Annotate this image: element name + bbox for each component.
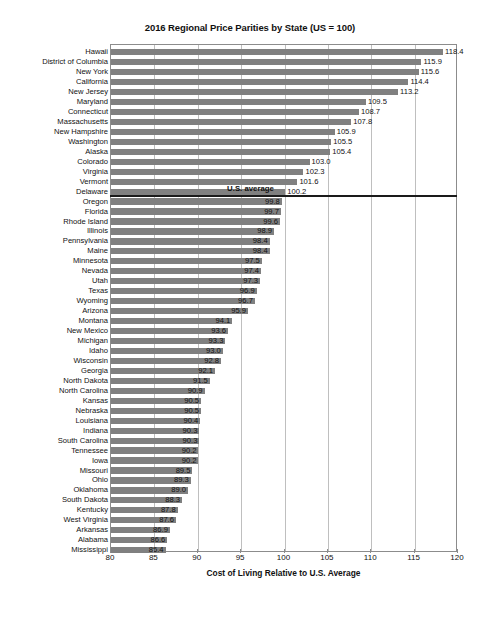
bar-row: Iowa90.2: [0, 456, 500, 466]
bar-row: Washington105.5: [0, 137, 500, 147]
bar: [111, 218, 280, 224]
bar: [111, 288, 257, 294]
bar-value-label: 97.5: [245, 256, 260, 266]
state-label: Illinois: [0, 226, 108, 236]
bar-row: Arizona95.9: [0, 306, 500, 316]
bar-value-label: 93.0: [206, 346, 221, 356]
x-tick-95: 95: [220, 553, 260, 562]
bar: [111, 228, 274, 234]
bar-value-label: 90.5: [184, 406, 199, 416]
bar-row: New York115.6: [0, 67, 500, 77]
bar-row: Idaho93.0: [0, 346, 500, 356]
state-label: Michigan: [0, 336, 108, 346]
bar-row: Florida99.7: [0, 207, 500, 217]
bar-value-label: 107.8: [353, 117, 372, 127]
x-tickmark-115: [414, 549, 415, 553]
state-label: Pennsylvania: [0, 236, 108, 246]
state-label: Nevada: [0, 266, 108, 276]
bar-row: Pennsylvania98.4: [0, 236, 500, 246]
state-label: New Hampshire: [0, 127, 108, 137]
bar-row: Texas96.9: [0, 286, 500, 296]
bar-value-label: 90.3: [183, 426, 198, 436]
bar-value-label: 90.4: [183, 416, 198, 426]
x-tickmark-80: [110, 549, 111, 553]
bar: [111, 169, 303, 175]
bar-row: Michigan93.3: [0, 336, 500, 346]
chart-figure: 2016 Regional Price Parities by State (U…: [0, 0, 500, 622]
state-label: Kentucky: [0, 505, 108, 515]
bar: [111, 248, 270, 254]
x-tick-100: 100: [264, 553, 304, 562]
bar: [111, 268, 261, 274]
bar-row: Minnesota97.5: [0, 256, 500, 266]
bar-row: Georgia92.1: [0, 366, 500, 376]
state-label: Wyoming: [0, 296, 108, 306]
bar-value-label: 87.6: [159, 515, 174, 525]
bar-row: South Dakota88.3: [0, 495, 500, 505]
bar: [111, 109, 359, 115]
bar-row: Rhode Island99.6: [0, 217, 500, 227]
state-label: Indiana: [0, 426, 108, 436]
bar-row: Virginia102.3: [0, 167, 500, 177]
bar-value-label: 115.9: [423, 57, 441, 67]
state-label: Connecticut: [0, 107, 108, 117]
bar: [111, 159, 310, 165]
bar-value-label: 114.4: [410, 77, 428, 87]
state-label: Kansas: [0, 396, 108, 406]
bar-value-label: 95.9: [231, 306, 246, 316]
bar: [111, 119, 351, 125]
bar-value-label: 89.0: [171, 485, 186, 495]
bar-value-label: 98.4: [253, 236, 268, 246]
bar-row: Hawaii118.4: [0, 47, 500, 57]
bar-value-label: 92.1: [198, 366, 213, 376]
bar-row: Connecticut108.7: [0, 107, 500, 117]
bar-value-label: 87.8: [161, 505, 176, 515]
bar: [111, 69, 419, 75]
bar: [111, 298, 255, 304]
bar: [111, 89, 398, 95]
state-label: Arkansas: [0, 525, 108, 535]
state-label: North Dakota: [0, 376, 108, 386]
x-tickmark-110: [370, 549, 371, 553]
bar-value-label: 89.5: [176, 466, 191, 476]
bar-row: Massachusetts107.8: [0, 117, 500, 127]
bar-value-label: 96.9: [240, 286, 255, 296]
bar-row: Wyoming96.7: [0, 296, 500, 306]
bar-row: Arkansas86.9: [0, 525, 500, 535]
bar-value-label: 103.0: [312, 157, 331, 167]
bar: [111, 59, 421, 65]
state-label: Montana: [0, 316, 108, 326]
state-label: New Jersey: [0, 87, 108, 97]
x-tick-90: 90: [177, 553, 217, 562]
x-tick-110: 110: [350, 553, 390, 562]
bar: [111, 258, 262, 264]
bar: [111, 198, 282, 204]
x-tickmark-90: [197, 549, 198, 553]
bar-value-label: 98.4: [253, 246, 268, 256]
state-label: South Dakota: [0, 495, 108, 505]
state-label: Texas: [0, 286, 108, 296]
state-label: California: [0, 77, 108, 87]
bar-value-label: 93.3: [209, 336, 224, 346]
x-tick-120: 120: [437, 553, 477, 562]
state-label: Maryland: [0, 97, 108, 107]
state-label: Colorado: [0, 157, 108, 167]
state-label: Georgia: [0, 366, 108, 376]
bar-value-label: 89.3: [174, 475, 189, 485]
state-label: Utah: [0, 276, 108, 286]
x-tick-80: 80: [90, 553, 130, 562]
bar: [111, 129, 335, 135]
bar: [111, 238, 270, 244]
bar-row: New Mexico93.6: [0, 326, 500, 336]
state-label: Alaska: [0, 147, 108, 157]
bar-row: Utah97.3: [0, 276, 500, 286]
state-label: District of Columbia: [0, 57, 108, 67]
bar-row: North Carolina90.9: [0, 386, 500, 396]
x-tickmark-120: [457, 549, 458, 553]
bar-row: Alabama86.6: [0, 535, 500, 545]
bar-value-label: 105.4: [332, 147, 351, 157]
bar: [111, 49, 443, 55]
bar-row: Montana94.1: [0, 316, 500, 326]
bar-row: Kentucky87.8: [0, 505, 500, 515]
x-tickmark-85: [153, 549, 154, 553]
